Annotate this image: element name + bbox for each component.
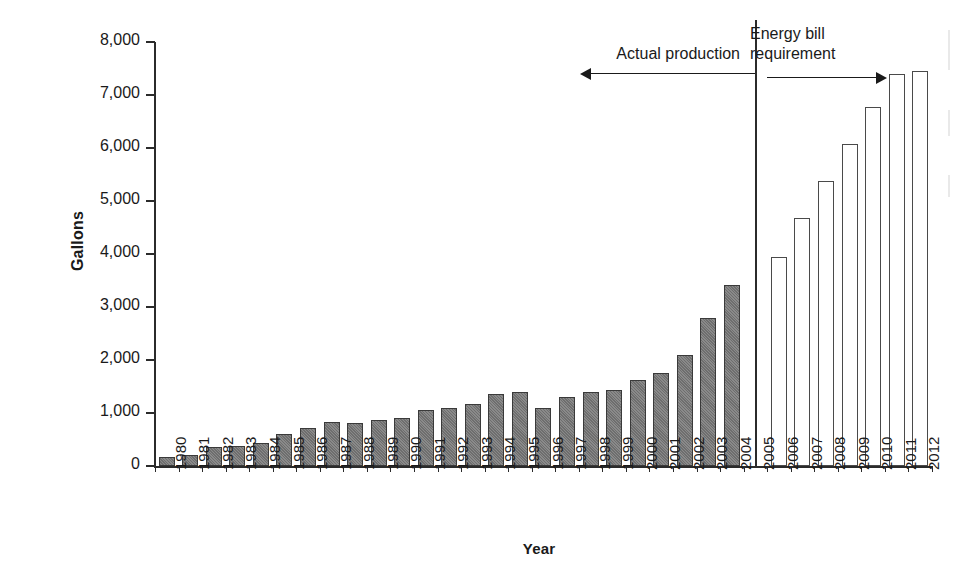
y-axis-tick-label: 0: [131, 455, 140, 473]
x-axis-tick-label-2002: 2002: [691, 408, 707, 470]
y-axis-tick: 3,000: [146, 306, 155, 308]
bar-chart-figure: Gallons 8,0007,0006,0005,0004,0003,0002,…: [0, 0, 954, 571]
x-axis-tick-label-1992: 1992: [455, 408, 471, 470]
x-axis-tick-label-2009: 2009: [856, 408, 872, 470]
bar-series-container: [155, 42, 932, 466]
y-axis-tick-label: 2,000: [100, 349, 140, 367]
x-axis-title: Year: [0, 540, 954, 557]
y-axis-tick-label: 7,000: [100, 84, 140, 102]
x-axis-tick-label-1984: 1984: [267, 408, 283, 470]
x-axis-tick-label-1983: 1983: [243, 408, 259, 470]
y-axis-tick-label: 3,000: [100, 296, 140, 314]
x-axis-tick-label-2001: 2001: [667, 408, 683, 470]
x-axis-tick-label-2007: 2007: [809, 408, 825, 470]
y-axis-tick: 8,000: [146, 41, 155, 43]
x-axis-tick-label-1981: 1981: [196, 408, 212, 470]
y-axis-tick-label: 1,000: [100, 402, 140, 420]
x-axis-tick-label-2000: 2000: [644, 408, 660, 470]
x-axis-tick-label-1993: 1993: [479, 408, 495, 470]
era-divider-line: [755, 20, 757, 466]
x-axis-tick-label-2012: 2012: [926, 408, 942, 470]
x-axis-tick-label-1989: 1989: [385, 408, 401, 470]
x-axis-tick-label-1985: 1985: [291, 408, 307, 470]
x-axis-tick-label-1988: 1988: [361, 408, 377, 470]
x-axis-tick-label-1997: 1997: [573, 408, 589, 470]
y-axis-tick-label: 5,000: [100, 190, 140, 208]
x-axis-tick-label-2005: 2005: [761, 408, 777, 470]
y-axis-tick-label: 6,000: [100, 137, 140, 155]
y-axis-tick: 5,000: [146, 200, 155, 202]
x-axis-tick-label-1987: 1987: [338, 408, 354, 470]
page-edge-artifact: [948, 110, 950, 136]
x-axis-title-text: Year: [523, 540, 556, 557]
x-axis-tick-label-2006: 2006: [785, 408, 801, 470]
x-axis-tick-label-1991: 1991: [432, 408, 448, 470]
annotation-energy-bill-line2: requirement: [750, 44, 900, 64]
bar-2012: [912, 71, 928, 466]
y-axis-tick: 6,000: [146, 147, 155, 149]
x-axis-tick-label-1982: 1982: [220, 408, 236, 470]
x-axis-tick-label-1994: 1994: [502, 408, 518, 470]
x-axis-tick-labels: 1980198119821983198419851986198719881989…: [155, 470, 932, 532]
annotation-energy-bill-requirement-label: Energy bill requirement: [750, 24, 900, 64]
y-axis-tick-label: 4,000: [100, 243, 140, 261]
annotation-actual-production-label: Actual production: [560, 44, 740, 64]
annotation-energy-bill-line1: Energy bill: [750, 24, 900, 44]
x-axis-tick-label-1986: 1986: [314, 408, 330, 470]
arrow-shaft: [589, 73, 755, 74]
y-axis-tick: 4,000: [146, 253, 155, 255]
x-axis-tick-label-1990: 1990: [408, 408, 424, 470]
arrow-shaft: [767, 77, 879, 78]
arrow-head-right-icon: [876, 72, 887, 84]
y-axis-tick-label: 8,000: [100, 31, 140, 49]
page-edge-artifact: [948, 175, 950, 197]
x-axis-tick-label-2011: 2011: [903, 408, 919, 470]
y-axis-title: Gallons: [69, 181, 87, 301]
annotation-actual-production-arrow: [580, 68, 755, 80]
x-axis-tick-label-2008: 2008: [832, 408, 848, 470]
x-axis-tick-label-1995: 1995: [526, 408, 542, 470]
annotation-energy-bill-requirement-arrow: [767, 72, 887, 84]
page-edge-artifact: [948, 30, 950, 70]
x-axis-tick-label-1998: 1998: [597, 408, 613, 470]
plot-area: 8,0007,0006,0005,0004,0003,0002,0001,000…: [155, 42, 932, 466]
x-axis-tick-label-2010: 2010: [879, 408, 895, 470]
y-axis-tick: 1,000: [146, 412, 155, 414]
x-axis-tick-label-1999: 1999: [620, 408, 636, 470]
x-axis-tick-label-1980: 1980: [173, 408, 189, 470]
y-axis-tick: 7,000: [146, 94, 155, 96]
y-axis-tick: 0: [146, 465, 155, 467]
x-axis-tick-label-2004: 2004: [738, 408, 754, 470]
x-axis-tick-label-2003: 2003: [714, 408, 730, 470]
x-axis-tick-label-1996: 1996: [550, 408, 566, 470]
y-axis-tick: 2,000: [146, 359, 155, 361]
